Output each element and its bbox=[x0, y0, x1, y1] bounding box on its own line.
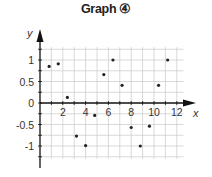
y-tick-label: 0.5 bbox=[19, 76, 34, 88]
x-tick-label: 6 bbox=[105, 106, 111, 118]
data-point bbox=[166, 58, 169, 61]
x-tick-label: 8 bbox=[128, 106, 134, 118]
x-axis-arrow-icon bbox=[183, 100, 196, 107]
data-point bbox=[48, 65, 51, 68]
y-tick-label: -0.5 bbox=[16, 119, 34, 131]
data-point bbox=[120, 84, 123, 87]
data-point bbox=[57, 62, 60, 65]
data-point bbox=[66, 96, 69, 99]
tick-labels: 2468101210.50-0.5-1xy bbox=[16, 27, 199, 152]
data-point bbox=[111, 58, 114, 61]
x-tick-label: 4 bbox=[83, 106, 89, 118]
x-axis-label: x bbox=[192, 107, 199, 119]
y-axis-label: y bbox=[26, 27, 34, 39]
data-point bbox=[84, 144, 87, 147]
data-point bbox=[157, 84, 160, 87]
y-tick-label: 1 bbox=[28, 54, 34, 66]
data-point bbox=[148, 125, 151, 128]
y-tick-label: -1 bbox=[25, 140, 34, 152]
data-point bbox=[130, 126, 133, 129]
axes bbox=[37, 29, 197, 168]
data-point bbox=[102, 73, 105, 76]
scatter-chart: 2468101210.50-0.5-1xy bbox=[0, 0, 212, 177]
y-tick-label: 0 bbox=[28, 97, 34, 109]
x-tick-label: 10 bbox=[148, 106, 160, 118]
x-tick-label: 2 bbox=[60, 106, 66, 118]
x-tick-label: 12 bbox=[171, 106, 183, 118]
data-point bbox=[75, 135, 78, 138]
y-axis-arrow-icon bbox=[37, 29, 44, 42]
data-point bbox=[93, 114, 96, 117]
data-point bbox=[139, 144, 142, 147]
